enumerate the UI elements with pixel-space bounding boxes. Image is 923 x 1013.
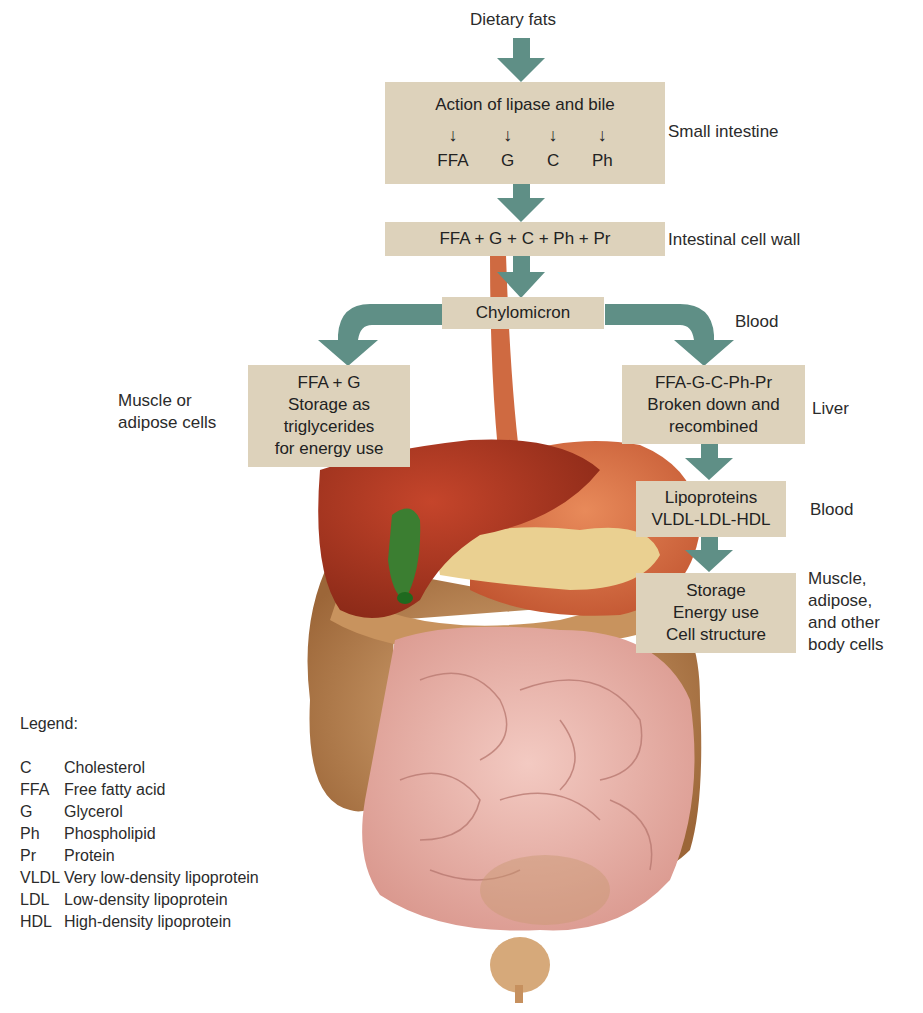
product-ffa: ↓ FFA: [437, 120, 468, 172]
arrow-down-icon: [685, 444, 733, 480]
arrow-down-icon: [497, 184, 545, 222]
arrow-down-thin-icon: ↓: [598, 120, 607, 150]
muscle-adipose-label: Muscle or adipose cells: [118, 390, 216, 434]
legend-item: LDLLow-density lipoprotein: [20, 889, 259, 911]
liver-box: FFA-G-C-Ph-Pr Broken down and recombined: [622, 365, 805, 444]
legend-item: GGlycerol: [20, 801, 259, 823]
lipase-bile-box: Action of lipase and bile ↓ FFA ↓ G ↓ C …: [385, 82, 665, 184]
blood-label-2: Blood: [810, 499, 853, 521]
body-cells-label: Muscle, adipose, and other body cells: [808, 568, 884, 656]
arrow-down-icon: [685, 537, 733, 572]
curved-arrow-left-icon: [318, 304, 445, 366]
arrow-down-thin-icon: ↓: [503, 120, 512, 150]
muscle-storage-box: FFA + G Storage as triglycerides for ene…: [248, 365, 410, 467]
legend-title: Legend:: [20, 713, 259, 735]
arrow-down-thin-icon: ↓: [549, 120, 558, 150]
legend-item: HDLHigh-density lipoprotein: [20, 911, 259, 933]
legend-item: VLDLVery low-density lipoprotein: [20, 867, 259, 889]
body-cells-box: Storage Energy use Cell structure: [636, 573, 796, 653]
lipoproteins-box: Lipoproteins VLDL-LDL-HDL: [636, 481, 786, 537]
legend-item: PrProtein: [20, 845, 259, 867]
blood-label-1: Blood: [735, 311, 778, 333]
product-g: ↓ G: [501, 120, 514, 172]
legend: Legend: CCholesterol FFAFree fatty acid …: [20, 713, 259, 933]
arrow-down-icon: [497, 38, 545, 82]
dietary-fats-label: Dietary fats: [470, 10, 556, 30]
arrow-down-icon: [497, 256, 545, 298]
cell-wall-box: FFA + G + C + Ph + Pr: [385, 222, 665, 256]
arrow-down-thin-icon: ↓: [448, 120, 457, 150]
lipase-heading: Action of lipase and bile: [435, 94, 615, 116]
legend-item: CCholesterol: [20, 757, 259, 779]
small-intestine-label: Small intestine: [668, 121, 779, 143]
legend-item: FFAFree fatty acid: [20, 779, 259, 801]
chylomicron-box: Chylomicron: [442, 297, 604, 329]
intestinal-cell-wall-label: Intestinal cell wall: [668, 229, 800, 251]
product-ph: ↓ Ph: [592, 120, 613, 172]
curved-arrow-right-icon: [605, 304, 734, 366]
product-c: ↓ C: [547, 120, 559, 172]
liver-label: Liver: [812, 398, 849, 420]
legend-item: PhPhospholipid: [20, 823, 259, 845]
